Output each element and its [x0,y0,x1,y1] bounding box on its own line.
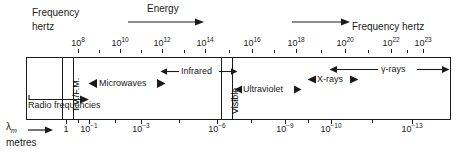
top-tick-major-1 [120,49,121,53]
top-tick-minor-2 [184,50,185,53]
top-tick-major-7 [391,49,392,53]
band-label-ultraviolet: Ultraviolet [243,84,283,94]
top-axis-tick-label-1: 1010 [111,38,128,48]
bottom-tick-minor-3 [251,120,252,123]
top-axis-tick-label-0: 108 [71,38,85,48]
gamma-rays-left-arrow-icon [329,64,379,75]
top-axis-tick-label-6: 1020 [336,38,353,48]
top-tick-minor-6 [368,50,369,53]
top-tick-minor-3 [229,50,230,53]
top-tick-major-0 [78,49,79,53]
top-tick-minor-0 [99,50,100,53]
top-tick-minor-7 [407,50,408,53]
top-axis-tick-label-7: 1022 [382,38,399,48]
energy-arrow-icon [127,17,205,27]
x-rays-left-arrow-icon [307,74,317,85]
band-label-radio-frequencies: Radio frequencies [28,100,101,110]
band-label-x-rays: X-rays [317,74,343,84]
top-tick-minor-1 [141,50,142,53]
microwaves-left-arrow-icon [88,78,98,89]
top-axis-tick-label-8: 1023 [414,38,431,48]
band-label-infrared: Infrared [181,66,212,76]
energy-arrow-right-icon [291,17,351,27]
top-tick-major-8 [423,49,424,53]
bottom-axis-tick-label-4: 10−9 [276,124,293,134]
top-axis-tick-label-3: 1014 [196,38,213,48]
bottom-axis-tick-label-1: 10−1 [80,124,97,134]
band-label-microwaves: Microwaves [99,78,147,88]
bottom-axis-tick-label-5: 10−10 [320,124,341,134]
infrared-right-arrow-icon [218,66,238,77]
frequency-hertz-label-left-line2: hertz [32,22,54,32]
top-axis-tick-label-4: 1016 [243,38,260,48]
top-tick-major-3 [205,49,206,53]
bottom-axis-tick-label-2: 10−3 [132,124,149,134]
ultraviolet-right-arrow-icon [293,84,302,95]
frequency-hertz-label-right: Frequency hertz [352,22,424,32]
bottom-axis-tick-label-3: 10−6 [208,124,225,134]
ultraviolet-left-arrow-icon [234,84,243,95]
infrared-left-arrow-icon [160,66,180,77]
box-left-edge [26,57,27,119]
top-tick-major-2 [162,49,163,53]
bottom-tick-minor-2 [179,120,180,123]
top-tick-major-6 [345,49,346,53]
wavelength-units-label: metres [6,138,37,148]
top-tick-major-5 [296,49,297,53]
top-tick-minor-5 [321,50,322,53]
gamma-rays-right-arrow-icon [416,64,450,75]
top-tick-major-4 [252,49,253,53]
radio-frequencies-arrow-icon [28,89,90,101]
bottom-tick-minor-1 [115,120,116,123]
bottom-tick-minor-4 [308,120,309,123]
top-axis-line [26,57,451,58]
x-rays-right-arrow-icon [349,74,359,85]
wavelength-arrow-icon [28,125,54,135]
wavelength-symbol-label: λm [6,122,17,134]
bottom-axis-tick-label-6: 10−13 [401,124,422,134]
box-right-edge [450,57,451,119]
energy-label: Energy [147,4,179,14]
microwaves-right-arrow-icon [156,78,166,89]
em-spectrum-figure: Frequency hertz Frequency hertz Energy 1… [0,0,457,157]
top-tick-minor-4 [274,50,275,53]
bottom-tick-minor-0 [78,120,79,123]
frequency-hertz-label-left-line1: Frequency [32,8,79,18]
top-axis-tick-label-2: 1012 [153,38,170,48]
bottom-axis-tick-label-0: 1 [63,124,68,134]
bottom-tick-minor-5 [372,120,373,123]
top-axis-tick-label-5: 1018 [287,38,304,48]
band-label-gamma-rays: γ-rays [381,64,406,74]
